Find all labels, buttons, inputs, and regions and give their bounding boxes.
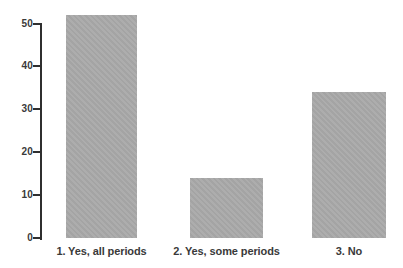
y-tick-label: 20 bbox=[3, 147, 33, 157]
bar-2-yes-some-periods bbox=[190, 178, 263, 238]
bar-3-no bbox=[312, 92, 386, 238]
y-tick-label: 30 bbox=[3, 104, 33, 114]
x-category-label: 2. Yes, some periods bbox=[173, 245, 280, 257]
y-tick-mark bbox=[33, 194, 40, 196]
y-tick-label: 50 bbox=[3, 19, 33, 29]
bar-chart-figure: 01020304050 1. Yes, all periods2. Yes, s… bbox=[0, 0, 403, 268]
y-tick-label: 10 bbox=[3, 190, 33, 200]
y-tick-label: 0 bbox=[3, 233, 33, 243]
y-tick-mark bbox=[33, 23, 40, 25]
x-category-label: 3. No bbox=[336, 245, 362, 257]
y-tick-mark bbox=[33, 151, 40, 153]
bar-1-yes-all-periods bbox=[66, 15, 137, 238]
x-category-label: 1. Yes, all periods bbox=[56, 245, 146, 257]
y-tick-mark bbox=[33, 108, 40, 110]
y-axis-line bbox=[40, 23, 42, 240]
y-tick-mark bbox=[33, 65, 40, 67]
y-tick-mark bbox=[33, 237, 40, 239]
y-tick-label: 40 bbox=[3, 61, 33, 71]
